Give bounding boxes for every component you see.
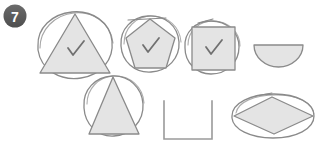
figure-semicircle bbox=[254, 45, 303, 67]
figure-triangle-in-circle bbox=[84, 76, 144, 136]
triangle-shape-5 bbox=[89, 77, 139, 134]
figure-square-in-circle-checked bbox=[185, 19, 240, 74]
panel-number-badge: 7 bbox=[4, 5, 27, 28]
square-shape-3 bbox=[192, 27, 235, 70]
badge-number-label: 7 bbox=[11, 9, 19, 25]
geometry-figures-canvas: 7 bbox=[0, 0, 317, 153]
figure-triangle-in-circle-checked bbox=[38, 12, 113, 79]
figure-panel: 7 bbox=[0, 0, 317, 153]
rhombus-shape-7 bbox=[234, 97, 313, 134]
figure-pentagon-in-circle-checked bbox=[121, 16, 181, 72]
open-square-shape bbox=[164, 101, 212, 139]
pentagon-shape-2 bbox=[126, 19, 175, 68]
semicircle-shape bbox=[254, 45, 303, 67]
tangent-stroke-2 bbox=[128, 18, 166, 20]
figure-open-square bbox=[164, 101, 212, 139]
figure-rhombus-in-ellipse bbox=[232, 93, 314, 138]
